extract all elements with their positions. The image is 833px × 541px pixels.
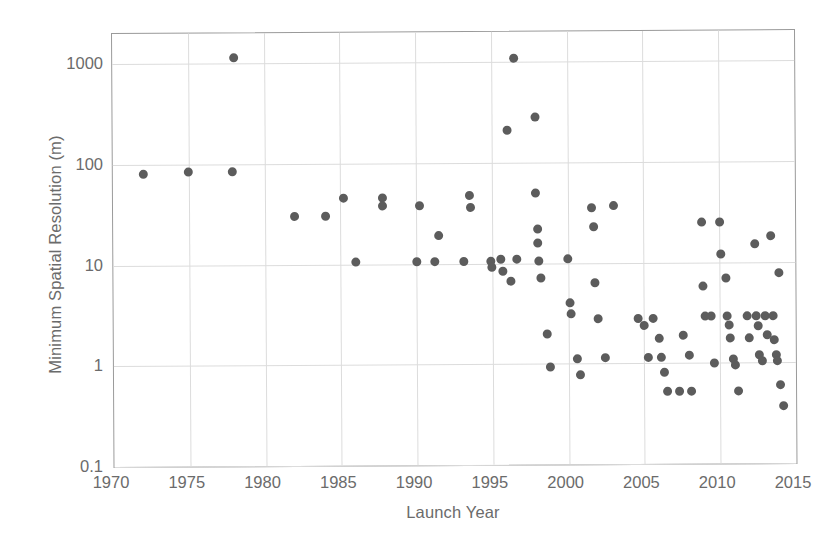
data-point <box>609 201 618 210</box>
plot-area <box>111 29 797 468</box>
data-point <box>589 222 598 231</box>
x-tick-label: 1985 <box>303 473 373 492</box>
data-point <box>698 282 707 291</box>
data-point <box>502 126 511 135</box>
data-point <box>430 257 439 266</box>
data-point <box>531 188 540 197</box>
data-point <box>770 335 779 344</box>
x-axis-tick-labels: 1970197519801985199019952000200520102015 <box>111 473 795 499</box>
data-point <box>776 380 785 389</box>
x-tick-label: 2010 <box>682 473 752 492</box>
data-point <box>591 278 600 287</box>
data-point <box>706 312 715 321</box>
data-point <box>533 224 542 233</box>
data-point <box>655 334 664 343</box>
data-point <box>724 320 733 329</box>
data-point <box>184 167 193 176</box>
data-point <box>459 257 468 266</box>
x-tick-label: 2005 <box>606 473 676 492</box>
data-point <box>536 273 545 282</box>
data-point <box>576 370 585 379</box>
data-point <box>587 204 596 213</box>
x-tick-label: 1995 <box>455 473 525 492</box>
data-point <box>229 53 238 62</box>
x-tick-label: 2015 <box>758 473 828 492</box>
gridline-vertical <box>339 33 342 466</box>
data-point <box>290 212 299 221</box>
gridline-vertical <box>642 31 645 464</box>
data-point <box>716 250 725 259</box>
data-point <box>750 240 759 249</box>
data-point <box>753 322 762 331</box>
data-point <box>715 218 724 227</box>
data-point <box>734 386 743 395</box>
data-point <box>228 167 237 176</box>
gridline-horizontal <box>112 60 794 65</box>
data-point <box>594 314 603 323</box>
x-tick-label: 1980 <box>228 473 298 492</box>
x-axis-title: Launch Year <box>110 503 796 522</box>
gridline-vertical <box>415 32 418 465</box>
data-point <box>731 360 740 369</box>
gridline-horizontal <box>113 262 795 267</box>
data-point <box>351 258 360 267</box>
scatter-chart-figure: Minimum Spatial Resolution (m) 0.1110100… <box>0 0 833 541</box>
data-point <box>721 274 730 283</box>
data-point <box>573 354 582 363</box>
gridline-horizontal <box>114 362 796 367</box>
data-point <box>768 311 777 320</box>
data-point <box>656 353 665 362</box>
data-point <box>758 356 767 365</box>
data-point <box>488 263 497 272</box>
data-point <box>600 353 609 362</box>
data-point <box>465 190 474 199</box>
data-point <box>506 276 515 285</box>
data-point <box>685 350 694 359</box>
data-point <box>415 201 424 210</box>
y-tick-label: 10 <box>33 255 103 274</box>
data-point <box>535 257 544 266</box>
data-point <box>466 203 475 212</box>
data-point <box>679 330 688 339</box>
data-point <box>339 194 348 203</box>
data-point <box>531 113 540 122</box>
data-point <box>321 212 330 221</box>
data-point <box>660 367 669 376</box>
x-tick-label: 1990 <box>379 473 449 492</box>
data-point <box>774 268 783 277</box>
gridline-vertical <box>491 32 494 465</box>
gridline-vertical <box>718 30 721 463</box>
data-point <box>752 312 761 321</box>
gridline-horizontal <box>113 161 795 166</box>
data-point <box>766 232 775 241</box>
data-point <box>726 334 735 343</box>
data-point <box>546 363 555 372</box>
data-point <box>663 386 672 395</box>
data-point <box>743 312 752 321</box>
x-tick-label: 2000 <box>531 473 601 492</box>
gridline-vertical <box>567 31 570 464</box>
y-axis-tick-labels: 0.11101001000 <box>25 33 103 468</box>
data-point <box>675 386 684 395</box>
data-point <box>533 238 542 247</box>
data-point <box>543 329 552 338</box>
data-point <box>649 314 658 323</box>
data-point <box>378 201 387 210</box>
gridline-horizontal <box>114 463 796 468</box>
y-tick-label: 1 <box>33 356 103 375</box>
data-point <box>687 386 696 395</box>
data-point <box>723 312 732 321</box>
data-point <box>697 218 706 227</box>
y-tick-label: 100 <box>33 154 103 173</box>
gridline-vertical <box>188 34 191 467</box>
data-point <box>773 356 782 365</box>
data-point <box>780 401 789 410</box>
data-point <box>567 310 576 319</box>
data-point <box>434 231 443 240</box>
gridline-vertical <box>264 33 267 466</box>
data-point <box>512 255 521 264</box>
data-point <box>509 53 518 62</box>
data-point <box>644 353 653 362</box>
data-point <box>498 266 507 275</box>
data-point <box>139 170 148 179</box>
